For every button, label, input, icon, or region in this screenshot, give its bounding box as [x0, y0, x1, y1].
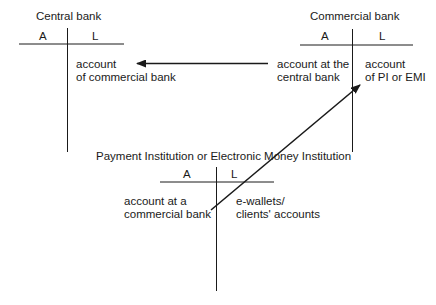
commercial-bank-liability-line1: account [365, 58, 405, 71]
pi-emi-liability-line2: clients' accounts [236, 208, 320, 221]
central-bank-title: Central bank [36, 10, 101, 23]
commercial-bank-col-l: L [379, 30, 385, 43]
central-bank-liability-line1: account [76, 58, 116, 71]
commercial-bank-t-account [300, 29, 413, 152]
pi-emi-liability-line1: e-wallets/ [236, 195, 285, 208]
arrow-pi-to-commercial [211, 85, 360, 210]
commercial-bank-title: Commercial bank [310, 10, 399, 23]
pi-emi-asset-line1: account at a [124, 195, 187, 208]
pi-emi-title: Payment Institution or Electronic Money … [96, 150, 351, 163]
pi-emi-col-a: A [183, 168, 191, 181]
central-bank-liability-line2: of commercial bank [76, 71, 176, 84]
pi-emi-asset-line2: commercial bank [124, 208, 211, 221]
central-bank-t-account [19, 28, 124, 152]
central-bank-col-l: L [92, 30, 98, 43]
commercial-bank-col-a: A [321, 30, 329, 43]
commercial-bank-asset-line2: central bank [277, 71, 340, 84]
central-bank-col-a: A [39, 30, 47, 43]
commercial-bank-liability-line2: of PI or EMI [365, 71, 426, 84]
commercial-bank-asset-line1: account at the [277, 58, 349, 71]
pi-emi-t-account [160, 167, 274, 291]
pi-emi-col-l: L [231, 168, 237, 181]
